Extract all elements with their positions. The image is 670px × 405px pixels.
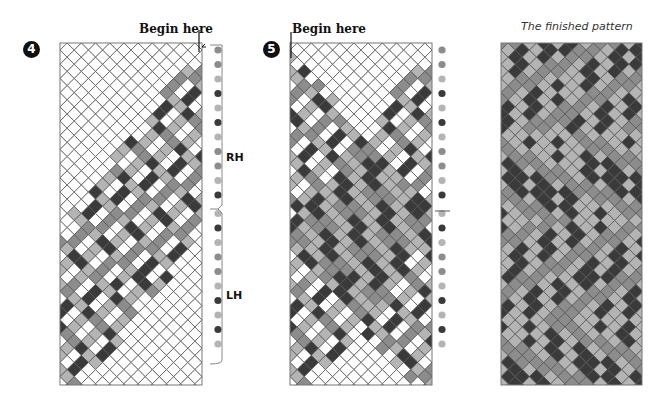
thread-color-dot bbox=[214, 177, 221, 184]
thread-color-dot bbox=[214, 268, 221, 275]
thread-color-dot bbox=[438, 311, 445, 318]
thread-color-dot bbox=[214, 90, 221, 97]
thread-color-dot bbox=[214, 224, 221, 231]
thread-color-dot bbox=[438, 239, 445, 246]
thread-color-dot bbox=[214, 311, 221, 318]
thread-color-dot bbox=[214, 133, 221, 140]
step-4-thread-colors bbox=[214, 46, 221, 347]
thread-color-dot bbox=[214, 326, 221, 333]
step-5-grid bbox=[269, 22, 461, 405]
thread-color-dot bbox=[438, 326, 445, 333]
thread-color-dot bbox=[438, 148, 445, 155]
thread-color-dot bbox=[438, 90, 445, 97]
thread-color-dot bbox=[438, 46, 445, 53]
thread-color-dot bbox=[214, 340, 221, 347]
thread-color-dot bbox=[438, 61, 445, 68]
thread-color-dot bbox=[214, 297, 221, 304]
thread-color-dot bbox=[438, 104, 445, 111]
begin-arrow-tip-icon bbox=[202, 44, 206, 47]
thread-color-dot bbox=[438, 133, 445, 140]
weaving-diagram-canvas bbox=[0, 0, 670, 405]
thread-color-dot bbox=[214, 239, 221, 246]
thread-color-dot bbox=[214, 148, 221, 155]
thread-color-dot bbox=[214, 191, 221, 198]
thread-color-dot bbox=[214, 61, 221, 68]
thread-color-dot bbox=[214, 253, 221, 260]
thread-color-dot bbox=[438, 297, 445, 304]
thread-color-dot bbox=[214, 162, 221, 169]
thread-color-dot bbox=[438, 268, 445, 275]
thread-color-dot bbox=[214, 282, 221, 289]
thread-color-dot bbox=[438, 282, 445, 289]
thread-color-dot bbox=[438, 224, 445, 231]
thread-color-dot bbox=[438, 162, 445, 169]
thread-color-dot bbox=[214, 46, 221, 53]
thread-color-dot bbox=[438, 75, 445, 82]
thread-color-dot bbox=[438, 340, 445, 347]
thread-color-dot bbox=[438, 177, 445, 184]
thread-color-dot bbox=[438, 191, 445, 198]
finished-pattern-grid bbox=[480, 22, 670, 405]
step-5-thread-colors bbox=[438, 46, 445, 347]
thread-color-dot bbox=[438, 253, 445, 260]
thread-color-dot bbox=[214, 119, 221, 126]
step-4-grid bbox=[39, 22, 231, 405]
thread-color-dot bbox=[214, 104, 221, 111]
thread-color-dot bbox=[438, 119, 445, 126]
thread-color-dot bbox=[214, 75, 221, 82]
